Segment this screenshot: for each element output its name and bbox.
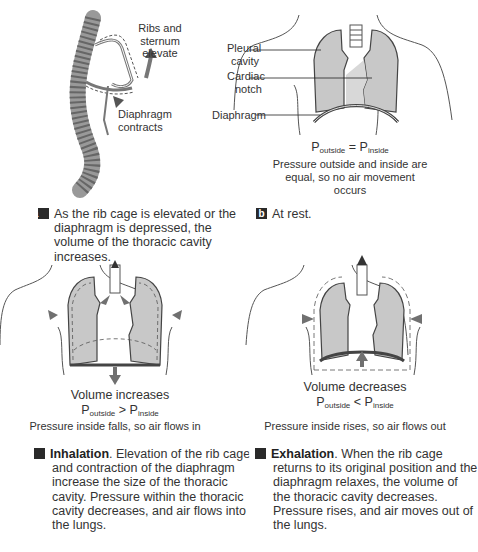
pressure-equation-d: Poutside < Pinside [295,395,415,413]
panel-badge-c: c [34,448,45,459]
p-operator: < [350,395,364,409]
p-left: P [316,395,324,409]
panel-c-caption: cInhalation. Elevation of the rib cage a… [34,447,252,532]
p-right-sub: inside [373,401,394,410]
p-right: P [365,395,373,409]
caption-title: Inhalation [50,447,109,461]
p-left-sub: outside [325,401,351,410]
panel-d-caption: dExhalation. When the rib cage returns t… [255,447,478,532]
thorax-exhalation-illustration [0,0,468,420]
volume-label-d: Volume decreases [270,380,440,395]
caption-title: Exhalation [271,447,334,461]
pressure-note-d: Pressure inside rises, so air flows out [255,420,455,433]
panel-badge-d: d [255,448,266,459]
pressure-note-c: Pressure inside falls, so air flows in [20,420,210,433]
